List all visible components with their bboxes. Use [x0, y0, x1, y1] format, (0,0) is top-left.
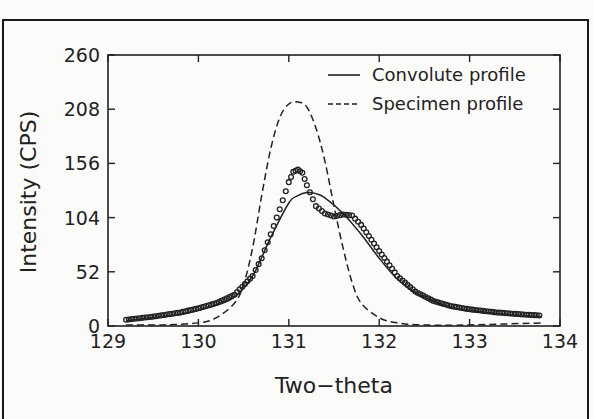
x-tick-label: 133 [451, 330, 487, 352]
legend-label-specimen: Specimen profile [372, 93, 523, 114]
legend-label-convolute: Convolute profile [372, 64, 526, 85]
y-tick-label: 208 [64, 98, 100, 120]
convolute-profile-line [126, 192, 542, 320]
axis-ticks: 129130131132133134052104156208260 [64, 44, 578, 352]
x-tick-label: 132 [361, 330, 397, 352]
specimen-profile-line [126, 102, 542, 326]
y-tick-label: 104 [64, 207, 100, 229]
observed-data-markers [124, 167, 542, 322]
y-axis-title: Intensity (CPS) [16, 111, 41, 274]
y-tick-label: 0 [88, 315, 100, 337]
x-tick-label: 130 [180, 330, 216, 352]
y-tick-label: 260 [64, 44, 100, 66]
x-tick-label: 131 [271, 330, 307, 352]
y-tick-label: 52 [76, 261, 100, 283]
y-tick-label: 156 [64, 152, 100, 174]
legend: Convolute profile Specimen profile [328, 64, 526, 114]
x-tick-label: 134 [542, 330, 578, 352]
data-series [124, 102, 542, 326]
x-axis-title: Two−theta [274, 373, 393, 398]
